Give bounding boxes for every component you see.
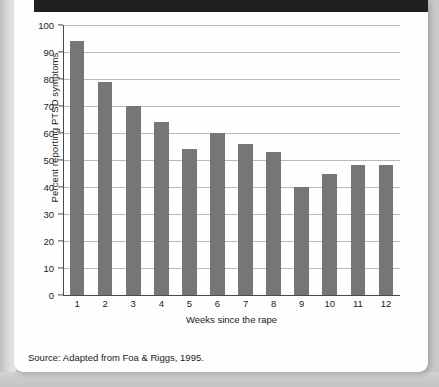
bar [351, 165, 366, 295]
page-container: Percent reporting PTSD symptoms 01020304… [0, 0, 439, 387]
page-header-band [34, 0, 428, 12]
y-tick-label: 60 [28, 128, 54, 139]
bar [322, 174, 337, 296]
x-axis-ticks: 123456789101112 [63, 298, 400, 312]
x-tick-label: 2 [102, 298, 107, 309]
x-tick-label: 7 [243, 298, 248, 309]
y-axis-ticks: 0102030405060708090100 [19, 25, 63, 295]
x-tick-label: 9 [299, 298, 304, 309]
x-tick-label: 5 [187, 298, 192, 309]
x-tick-label: 6 [215, 298, 220, 309]
x-tick-label: 3 [131, 298, 136, 309]
y-tick-label: 40 [28, 182, 54, 193]
y-tick-label: 0 [28, 290, 54, 301]
y-tick-label: 20 [28, 236, 54, 247]
bar [238, 144, 253, 295]
x-tick-label: 4 [159, 298, 164, 309]
figure-bar-chart: Percent reporting PTSD symptoms 01020304… [14, 12, 428, 372]
y-tick-label: 30 [28, 209, 54, 220]
bar [379, 165, 394, 295]
bar [294, 187, 309, 295]
bar [266, 152, 281, 295]
bar [210, 133, 225, 295]
x-tick-label: 10 [324, 298, 335, 309]
plot-area: 0102030405060708090100 [63, 25, 400, 295]
x-tick-label: 12 [381, 298, 392, 309]
source-note: Source: Adapted from Foa & Riggs, 1995. [28, 352, 204, 363]
y-tick-label: 100 [28, 20, 54, 31]
y-tick-label: 90 [28, 47, 54, 58]
y-tick-label: 70 [28, 101, 54, 112]
y-tick-label: 10 [28, 263, 54, 274]
x-tick-label: 8 [271, 298, 276, 309]
bar [126, 106, 141, 295]
bar [182, 149, 197, 295]
bar [70, 41, 85, 295]
page-bottom-shadow [0, 372, 439, 387]
bar [98, 82, 113, 295]
bar [154, 122, 169, 295]
x-tick-label: 11 [353, 298, 363, 309]
x-axis-label: Weeks since the rape [63, 314, 400, 325]
gridline [63, 295, 400, 296]
y-tick-label: 50 [28, 155, 54, 166]
x-tick-label: 1 [74, 298, 79, 309]
y-tick-label: 80 [28, 74, 54, 85]
page-sheet: Percent reporting PTSD symptoms 01020304… [14, 0, 428, 372]
bar-series [63, 25, 400, 295]
